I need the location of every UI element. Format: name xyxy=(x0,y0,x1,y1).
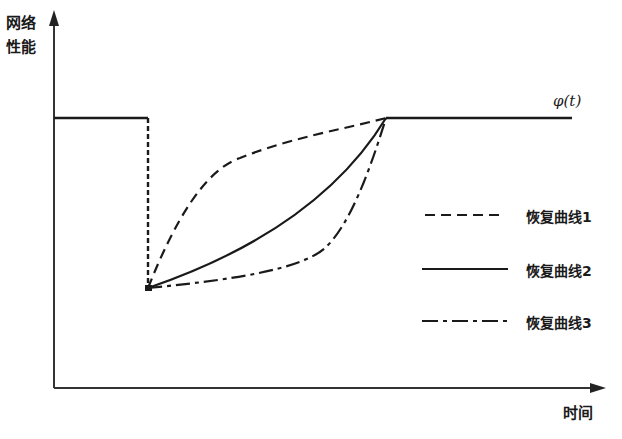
y-axis-label-line2: 性能 xyxy=(6,38,36,56)
recovery-curve-2 xyxy=(148,118,386,288)
legend-label-3: 恢复曲线3 xyxy=(526,312,592,332)
x-axis-arrow-icon xyxy=(590,383,606,393)
y-axis-arrow-icon xyxy=(49,10,59,26)
legend-label-2: 恢复曲线2 xyxy=(526,260,592,280)
x-axis-label: 时间 xyxy=(563,404,593,422)
axes xyxy=(54,20,598,388)
minimum-point-marker xyxy=(145,285,152,291)
recovery-curve-1 xyxy=(148,118,386,288)
recovery-curve-3 xyxy=(148,118,386,288)
function-label: φ(t) xyxy=(553,92,581,110)
y-axis-label-line1: 网络 xyxy=(6,14,36,32)
legend-label-1: 恢复曲线1 xyxy=(526,206,592,226)
